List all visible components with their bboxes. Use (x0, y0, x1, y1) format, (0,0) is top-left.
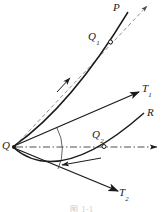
label-p-text: P (113, 1, 120, 13)
label-q2: Q2 (92, 129, 103, 143)
point-q2-marker (102, 145, 106, 149)
figure-container: P Q1 T1 R Q2 Q T2 图 1-1 (0, 0, 164, 212)
label-t2: T2 (119, 187, 129, 201)
label-q: Q (2, 140, 10, 151)
label-q2-subscript: 2 (100, 137, 103, 144)
label-q1-base: Q (88, 30, 96, 42)
angle-arc-at-q (57, 128, 62, 169)
direction-arrow-upper-curve (57, 78, 70, 92)
label-t1: T1 (142, 83, 152, 97)
ray-to-t2 (14, 148, 118, 191)
label-r-text: R (147, 106, 154, 118)
label-p: P (113, 2, 120, 13)
label-r: R (147, 107, 154, 118)
dashed-chord-to-p (15, 6, 147, 146)
label-q1: Q1 (88, 31, 99, 45)
curve-q-to-p (14, 12, 128, 146)
label-q1-subscript: 1 (96, 39, 99, 46)
label-q-text: Q (2, 139, 10, 151)
point-q1-marker (109, 40, 113, 44)
vector-diagram (0, 0, 164, 212)
label-t1-subscript: 1 (148, 91, 151, 98)
ray-to-t1 (14, 92, 139, 146)
point-q-marker (12, 145, 16, 149)
label-q2-base: Q (92, 128, 100, 140)
figure-caption: 图 1-1 (0, 203, 164, 212)
label-t2-subscript: 2 (125, 195, 128, 202)
